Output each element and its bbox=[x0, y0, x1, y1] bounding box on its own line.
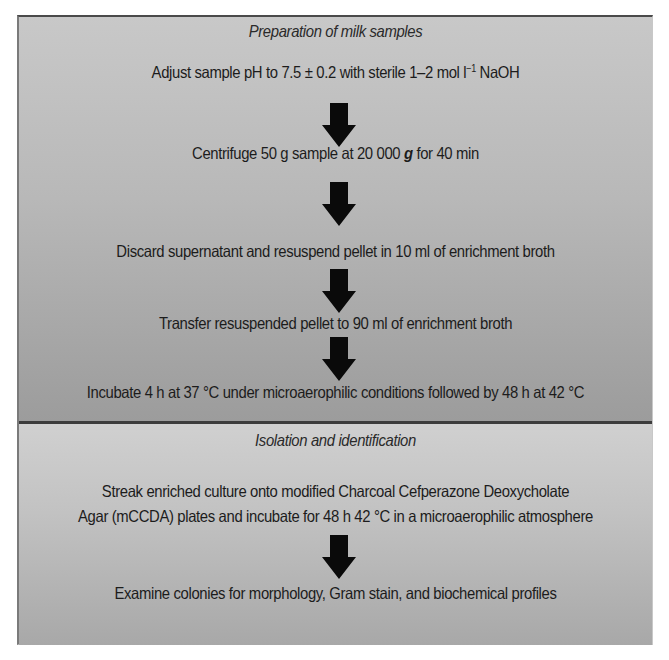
section-preparation: Preparation of milk samples Adjust sampl… bbox=[19, 17, 652, 421]
step-incubate: Incubate 4 h at 37 °C under microaerophi… bbox=[51, 383, 621, 402]
down-arrow-icon bbox=[322, 182, 356, 226]
step-examine-colonies: Examine colonies for morphology, Gram st… bbox=[51, 584, 621, 603]
step-centrifuge-text-end: for 40 min bbox=[413, 144, 479, 162]
step-centrifuge: Centrifuge 50 g sample at 20 000 g for 4… bbox=[51, 144, 621, 163]
step-adjust-ph-superscript: −1 bbox=[466, 63, 476, 74]
down-arrow-icon bbox=[322, 269, 356, 313]
flowchart-frame: Preparation of milk samples Adjust sampl… bbox=[17, 15, 653, 645]
section-heading-preparation: Preparation of milk samples bbox=[51, 22, 621, 41]
step-adjust-ph-text-end: NaOH bbox=[476, 63, 520, 81]
step-centrifuge-text: Centrifuge 50 g sample at 20 000 bbox=[192, 144, 404, 162]
down-arrow-icon bbox=[322, 103, 356, 147]
section-isolation: Isolation and identification Streak enri… bbox=[19, 424, 652, 645]
down-arrow-icon bbox=[322, 337, 356, 381]
step-streak-line-2: Agar (mCCDA) plates and incubate for 48 … bbox=[51, 507, 621, 526]
step-centrifuge-g-force: g bbox=[404, 144, 413, 162]
step-transfer-pellet: Transfer resuspended pellet to 90 ml of … bbox=[51, 314, 621, 333]
down-arrow-icon bbox=[322, 535, 356, 579]
step-discard-supernatant: Discard supernatant and resuspend pellet… bbox=[51, 242, 621, 261]
step-streak-line-1: Streak enriched culture onto modified Ch… bbox=[51, 482, 621, 501]
section-heading-isolation: Isolation and identification bbox=[51, 431, 621, 450]
step-adjust-ph-text: Adjust sample pH to 7.5 ± 0.2 with steri… bbox=[152, 63, 467, 81]
step-adjust-ph: Adjust sample pH to 7.5 ± 0.2 with steri… bbox=[51, 63, 621, 82]
